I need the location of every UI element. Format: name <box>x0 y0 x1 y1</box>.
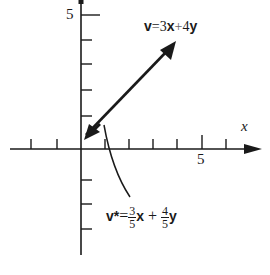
x-axis-ticks <box>31 135 226 149</box>
denominator: 5 <box>161 218 169 230</box>
coef-3: 3 <box>160 19 167 34</box>
x-axis <box>10 135 262 154</box>
fraction-4-5: 45 <box>161 205 169 230</box>
x-tick-label-5: 5 <box>197 151 205 168</box>
vector-v <box>86 41 176 135</box>
equals-sign: = <box>152 19 160 34</box>
y-basis: y <box>169 208 177 224</box>
v-symbol: v <box>144 18 152 34</box>
vector-diagram <box>0 0 270 275</box>
x-basis: x <box>167 18 175 34</box>
x-axis-arrowhead-icon <box>244 144 262 154</box>
plus-sign: + <box>148 207 157 224</box>
vector-vstar <box>84 124 100 140</box>
vstar-symbol: v* <box>106 208 119 224</box>
y-tick-label-5: 5 <box>66 6 74 23</box>
pointer-curve <box>104 125 130 197</box>
vstar-equation-label: v*=35x + 45y <box>106 205 177 230</box>
x-axis-label: x <box>241 118 248 135</box>
x-basis: x <box>136 208 144 224</box>
v-equation-label: v=3x+4y <box>144 18 197 35</box>
y-basis: y <box>189 18 197 34</box>
equals-sign: = <box>119 207 128 224</box>
